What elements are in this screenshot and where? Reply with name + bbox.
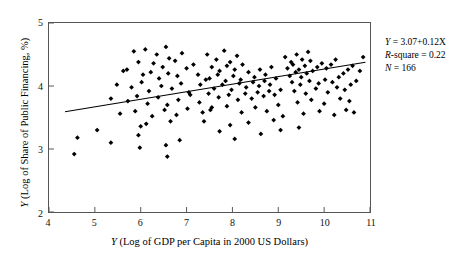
x-axis-title: Y (Log of GDP per Capita in 2000 US Doll… [48,236,371,247]
data-points [72,45,366,159]
data-point [258,67,263,72]
data-point [198,82,203,87]
x-tick-label-7: 7 [184,217,189,228]
data-point [206,91,211,96]
sample-size-line: N = 166 [385,62,446,75]
data-point [249,96,254,101]
scatter-canvas [49,23,370,212]
data-point [341,71,346,76]
data-point [338,96,343,101]
data-point [147,89,152,94]
data-point [166,71,171,76]
x-tick-label-8: 8 [230,217,235,228]
data-point [228,60,233,65]
data-point [307,79,312,84]
data-point [329,62,334,67]
data-point [164,143,169,148]
data-point [165,154,170,159]
data-point [232,137,237,142]
data-point [297,125,302,130]
data-point [196,72,201,77]
data-point [344,108,349,113]
data-point [264,109,269,114]
data-point [75,135,80,140]
data-point [202,119,207,124]
y-axis-title-text: (Log of Share of Public Financing, %) [19,38,30,202]
data-point [72,152,77,157]
x-tick-label-5: 5 [92,217,97,228]
data-point [165,103,170,108]
data-point [185,106,190,111]
data-point [243,91,248,96]
data-point [229,87,234,92]
data-point [268,82,273,87]
data-point [144,121,149,126]
data-point [179,81,184,86]
data-point [150,114,155,119]
data-point [216,95,221,100]
data-point [257,84,262,89]
data-point [170,86,175,91]
data-point [252,75,257,80]
data-point [164,45,169,50]
data-point [246,70,251,75]
data-point [292,89,297,94]
data-point [159,84,164,89]
data-point [162,108,167,113]
data-point [180,51,185,56]
data-point [347,99,352,104]
n-text: = 166 [391,63,415,73]
data-point [346,67,351,72]
data-point [255,90,260,95]
data-point [361,55,366,60]
data-point [231,74,236,79]
data-point [263,72,268,77]
data-point [235,53,240,58]
data-point [226,92,231,97]
data-point [267,89,272,94]
data-point [319,61,324,66]
data-point [203,77,208,82]
data-point [207,76,212,81]
data-point [225,104,230,109]
data-point [217,129,222,134]
data-point [232,67,237,72]
data-point [225,63,230,68]
data-point [141,72,146,77]
rsquare-text: -square = 0.22 [391,50,446,60]
data-point [317,109,322,114]
data-point [118,111,123,116]
data-point [222,48,227,53]
data-point [299,75,304,80]
data-point [184,66,189,71]
data-point [306,50,311,55]
data-point [167,56,172,61]
data-point [261,94,266,99]
data-point [303,91,308,96]
data-point [160,65,165,70]
y-tick-label-3: 3 [32,144,43,155]
data-point [244,85,249,90]
data-point [253,105,258,110]
data-point [258,132,263,137]
data-point [294,52,299,57]
data-point [302,63,307,68]
data-point [114,82,119,87]
data-point [136,60,141,65]
data-point [209,65,214,70]
data-point [278,87,283,92]
data-point [316,81,321,86]
data-point [269,65,274,70]
data-point [335,85,340,90]
regression-line [65,62,365,112]
data-point [322,101,327,106]
data-point [333,57,338,62]
data-point [246,120,251,125]
data-point [109,96,114,101]
y-axis-variable: Y [19,202,30,208]
data-point [323,77,328,82]
data-point [200,110,205,115]
data-point [214,57,219,62]
data-point [348,82,353,87]
data-point [175,74,180,79]
